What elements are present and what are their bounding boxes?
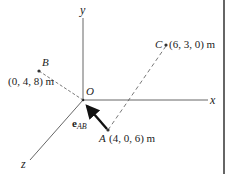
dashed-line-A-C — [108, 46, 166, 130]
vector-diagram: y x z O B (0, 4, 8) m C (6, 3, 0) m A (4… — [0, 0, 226, 174]
unit-vector-eAB-label: eAB — [72, 117, 87, 131]
point-C-label: C — [155, 38, 163, 50]
origin-label: O — [86, 85, 94, 97]
point-B-dot — [37, 69, 40, 72]
point-C-coords: (6, 3, 0) m — [169, 38, 216, 51]
point-B-label: B — [42, 56, 49, 68]
point-B-coords: (0, 4, 8) m — [8, 75, 55, 88]
point-A-coords: (4, 0, 6) m — [109, 132, 156, 145]
point-A-label: A — [98, 132, 106, 144]
point-C-dot — [164, 43, 167, 46]
unit-vector-eAB-arrow — [87, 106, 107, 129]
y-axis-label: y — [79, 3, 86, 17]
x-axis-label: x — [209, 93, 216, 107]
z-axis-label: z — [20, 157, 26, 171]
z-axis — [30, 100, 83, 160]
